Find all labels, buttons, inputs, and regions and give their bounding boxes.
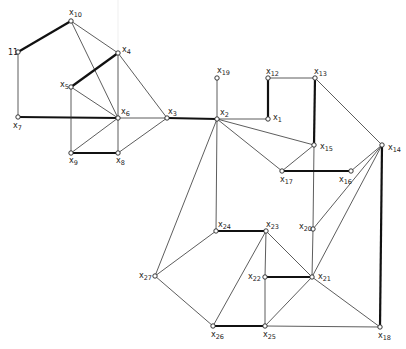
node-x14 [380,143,384,147]
edge-x14-x20 [313,145,382,229]
edge-x13-x15 [314,78,315,145]
node-label-x6: x6 [121,107,130,118]
node-x23 [264,229,268,233]
edge-x7-x6 [18,117,118,118]
node-label-x17: x17 [280,175,293,186]
edge-x14-x16 [351,145,382,171]
node-label-x21: x21 [318,272,331,283]
edge-x2-x24 [216,119,217,231]
node-x9 [69,151,73,155]
node-label-x7: x7 [13,121,22,132]
edge-x23-x21 [266,231,312,277]
node-label-x10: x10 [69,8,82,19]
graph-diagram: x1x2x3x4x5x6x7x8x9x1011x12x13x14x15x16x1… [0,0,406,349]
node-x10 [69,19,73,23]
node-x2 [215,117,219,121]
edge-x8-x3 [118,118,167,153]
node-x21 [310,275,314,279]
node-label-x5: x5 [60,80,69,91]
node-x18 [378,325,382,329]
edge-x25-x21 [265,277,312,326]
node-label-x15: x15 [320,142,333,153]
edge-x25-x18 [265,326,380,327]
edge-x10-x4 [71,21,118,53]
edge-x14-x21 [312,145,382,277]
node-label-x19: x19 [217,66,230,77]
node-x25 [263,324,267,328]
edge-x15-x20 [313,145,314,229]
labels-layer: x1x2x3x4x5x6x7x8x9x1011x12x13x14x15x16x1… [8,8,401,342]
edge-x20-x21 [312,229,313,277]
edge-x23-x22 [265,231,266,277]
node-label-x14: x14 [388,143,401,154]
node-x8 [116,151,120,155]
node-x19 [215,76,219,80]
node-label-x20: x20 [299,222,312,233]
node-label-x4: x4 [122,45,131,56]
node-x24 [214,229,218,233]
edge-x5-x6 [71,87,118,118]
node-label-x3: x3 [168,107,177,118]
node-label-x22: x22 [248,272,261,283]
node-label-x24: x24 [218,220,231,231]
node-x17 [280,169,284,173]
node-label-x27: x27 [139,271,152,282]
node-x4 [116,51,120,55]
edge-x10-x11 [18,21,71,52]
node-x22 [263,275,267,279]
edge-x15-x17 [282,145,314,171]
node-label-x1: x1 [273,113,282,124]
edge-x2-x15 [217,119,314,145]
node-x13 [313,76,317,80]
node-x26 [211,324,215,328]
node-x27 [153,274,157,278]
node-label-x9: x9 [69,156,78,167]
node-label-x2: x2 [220,108,229,119]
edge-x14-x18 [380,145,382,327]
node-label-x11: 11 [8,48,18,57]
node-label-x8: x8 [116,156,125,167]
node-x6 [116,116,120,120]
edge-x3-x2 [167,118,217,119]
node-label-x18: x18 [378,331,391,342]
node-x7 [16,115,20,119]
edge-x4-x5 [71,53,118,87]
edge-x2-x27 [155,119,217,276]
node-label-x25: x25 [263,330,276,341]
node-label-x16: x16 [339,175,352,186]
node-x12 [266,76,270,80]
node-x16 [349,169,353,173]
node-label-x26: x26 [211,330,224,341]
node-x1 [266,117,270,121]
edge-x2-x17 [217,119,282,171]
edge-x21-x18 [312,277,380,327]
node-x5 [69,85,73,89]
edge-x27-x26 [155,276,213,326]
edge-x13-x14 [315,78,382,145]
edge-x6-x9 [71,118,118,153]
node-x3 [165,116,169,120]
node-x15 [312,143,316,147]
